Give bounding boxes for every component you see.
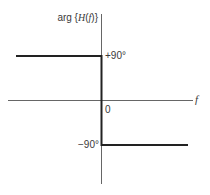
tick-minus-90: −90° [78, 140, 99, 150]
y-axis-label-prefix: arg { [57, 12, 78, 23]
x-axis-label: f [195, 94, 198, 105]
y-axis-label-suffix: )} [91, 12, 98, 23]
y-axis-label: arg {H(f)} [57, 13, 98, 23]
tick-plus-90: +90° [105, 51, 126, 61]
phase-plot [0, 0, 210, 195]
origin-label: 0 [105, 105, 111, 115]
